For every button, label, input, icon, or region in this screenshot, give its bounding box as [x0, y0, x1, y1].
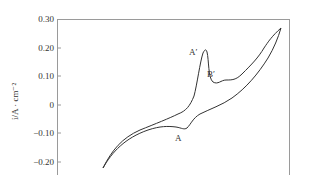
y-tick-0: 0 [50, 100, 55, 110]
peak-label-a-prime: A′ [189, 47, 197, 57]
y-tick-0.10: 0.10 [38, 71, 54, 81]
y-axis-label: i/A · cm⁻² [10, 83, 20, 120]
peak-label-b-prime: B′ [207, 69, 215, 79]
y-tick-labels: 0.30 0.20 0.10 0 −0.10 −0.20 [33, 14, 54, 167]
cv-chart: 0.30 0.20 0.10 0 −0.10 −0.20 i/A · cm⁻² … [0, 0, 315, 175]
peak-label-a: A [175, 133, 182, 143]
y-tick-neg-0.10: −0.10 [33, 128, 54, 138]
y-tick-neg-0.20: −0.20 [33, 157, 54, 167]
plot-frame [58, 19, 290, 175]
y-tick-0.30: 0.30 [38, 14, 54, 24]
y-tick-0.20: 0.20 [38, 43, 54, 53]
